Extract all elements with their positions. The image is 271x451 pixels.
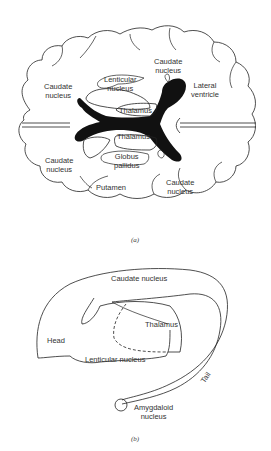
label-thalamus-b: Thalamus bbox=[145, 320, 178, 329]
label-lateral-ventricle: Lateralventricle bbox=[191, 81, 219, 99]
label-thalamus-lower: Thalamus bbox=[117, 132, 150, 141]
label-lenticular-b: Lenticular nucleus bbox=[85, 355, 145, 364]
caption-b: (b) bbox=[131, 435, 139, 443]
label-thalamus-upper: Thalamus bbox=[119, 106, 152, 115]
diagram-figure-a bbox=[0, 0, 271, 451]
label-amygdaloid: Amygdaloidnucleus bbox=[134, 403, 173, 421]
label-caudate-lower-right: Caudatenucleus bbox=[166, 178, 194, 196]
label-caudate-left: Caudatenucleus bbox=[44, 82, 72, 100]
label-caudate-lower-left: Caudatenucleus bbox=[45, 156, 73, 174]
label-putamen: Putamen bbox=[96, 183, 126, 192]
label-caudate-b: Caudate nucleus bbox=[111, 274, 167, 283]
label-lenticular: Lenticularnucleus bbox=[104, 75, 137, 93]
label-caudate-top: Caudatenucleus bbox=[154, 57, 182, 75]
label-globus-pallidus: Globuspallidus bbox=[114, 152, 139, 170]
caption-a: (a) bbox=[131, 236, 139, 244]
label-head: Head bbox=[47, 336, 65, 345]
